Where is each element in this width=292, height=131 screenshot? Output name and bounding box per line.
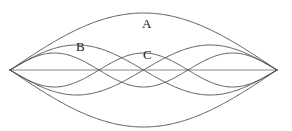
label-b: B bbox=[76, 40, 85, 53]
label-c: C bbox=[143, 48, 152, 61]
label-a: A bbox=[142, 17, 151, 30]
wave-a-lower-branch bbox=[10, 70, 277, 127]
standing-wave-figure: A B C bbox=[0, 0, 292, 131]
